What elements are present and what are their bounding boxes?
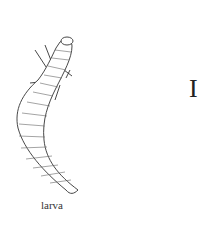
plate-label: I [189, 76, 198, 102]
larva-figure [17, 37, 78, 193]
larva-caption: larva [41, 199, 63, 211]
beetle-illustration [0, 0, 211, 232]
